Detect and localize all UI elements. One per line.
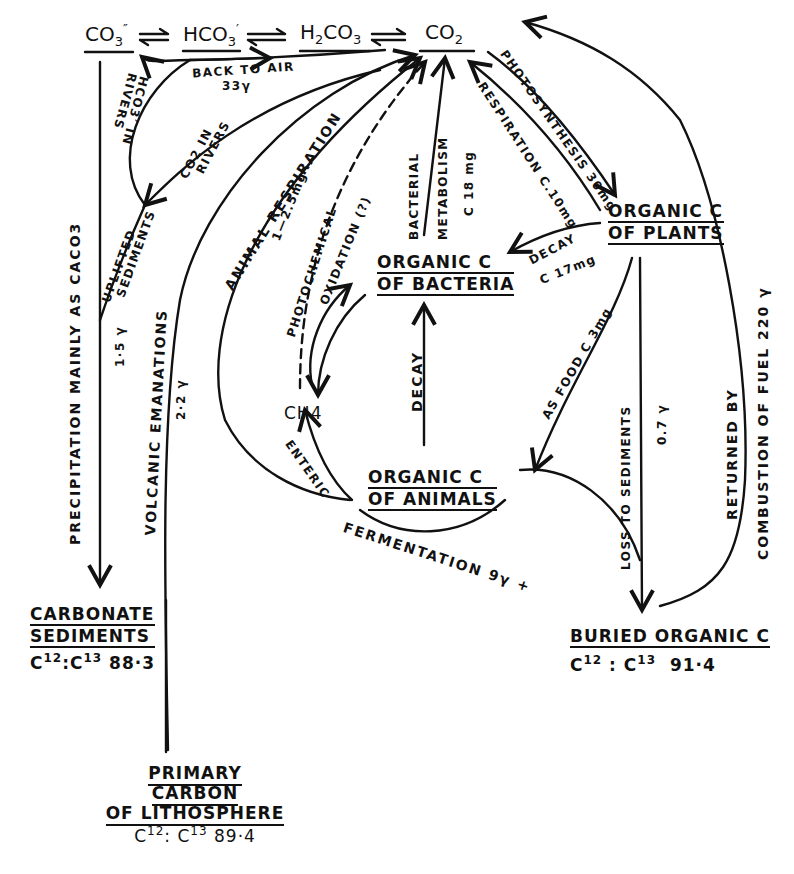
buried-organic-c-node: BURIED ORGANIC C C12 : C13 91·4 xyxy=(570,628,770,674)
volcanic-value: 2·2 γ xyxy=(175,379,187,420)
carbon-cycle-diagram: CO3″ HCO3′ H2CO3 CO2 ORGANIC C OF PLANTS… xyxy=(0,0,794,874)
carbonate-isotope-ratio: C12:C13 88·3 xyxy=(30,652,155,672)
bacterial-metabolism-value: C 18 mg xyxy=(463,151,475,216)
precipitation-label: PRECIPITATION MAINLY AS CACO3 xyxy=(68,222,82,545)
organic-c-plants-node: ORGANIC C OF PLANTS xyxy=(608,203,724,245)
metabolism-label: METABOLISM xyxy=(437,136,449,240)
organic-c-animals-node: ORGANIC C OF ANIMALS xyxy=(368,469,497,511)
uplifted-value: 1·5 γ xyxy=(114,326,126,367)
returned-by-label: RETURNED BY xyxy=(725,388,739,520)
primary-carbon-lithosphere-node: PRIMARY CARBON OF LITHOSPHERE C12: C13 8… xyxy=(95,765,295,845)
buried-isotope-ratio: C12 : C13 91·4 xyxy=(570,654,770,674)
bicarbonate-ion-label: HCO3′ xyxy=(183,22,239,48)
carbonic-acid-label: H2CO3 xyxy=(300,22,361,46)
back-to-air-value: 33γ xyxy=(222,80,251,92)
carbonate-sediments-node: CARBONATE SEDIMENTS C12:C13 88·3 xyxy=(30,606,155,672)
co2-label: CO2 xyxy=(425,22,463,46)
decay-animals-label: DECAY xyxy=(410,351,424,412)
loss-to-sediments-label: LOSS TO SEDIMENTS xyxy=(620,405,632,570)
organic-c-bacteria-node: ORGANIC C OF BACTERIA xyxy=(377,254,514,296)
bacterial-label: BACTERIAL xyxy=(408,152,420,240)
methane-node: CH4 xyxy=(284,405,322,422)
loss-value: 0.7 γ xyxy=(656,404,668,445)
combustion-of-fuel-label: COMBUSTION OF FUEL 220 γ xyxy=(756,286,770,560)
carbonate-ion-label: CO3″ xyxy=(85,22,128,48)
primary-isotope-ratio: C12: C13 89·4 xyxy=(95,825,295,845)
